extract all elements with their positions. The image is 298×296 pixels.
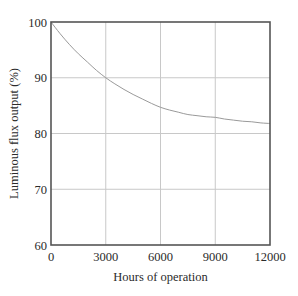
y-tick-label: 90	[35, 71, 48, 85]
y-tick-label: 60	[35, 239, 48, 253]
y-tick-label: 100	[28, 16, 47, 30]
x-tick-label: 12000	[254, 250, 285, 264]
x-tick-label: 3000	[93, 250, 118, 264]
x-tick-label: 0	[48, 250, 54, 264]
x-tick-label: 6000	[148, 250, 173, 264]
x-tick-label: 9000	[203, 250, 228, 264]
y-tick-label: 80	[35, 127, 48, 141]
x-axis-title: Hours of operation	[113, 270, 208, 284]
chart-container: 60708090100 030006000900012000 Hours of …	[0, 0, 298, 296]
y-tick-label: 70	[35, 183, 48, 197]
luminous-flux-decay-chart: 60708090100 030006000900012000 Hours of …	[0, 0, 298, 296]
y-axis-title: Luminous flux output (%)	[7, 68, 21, 199]
